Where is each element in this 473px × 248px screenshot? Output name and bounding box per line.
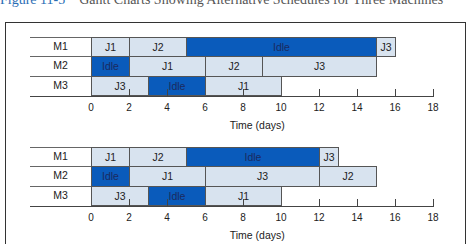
job-bar: J1 — [129, 166, 206, 186]
x-tick-label: 10 — [271, 102, 291, 113]
job-bar: J3 — [91, 186, 149, 206]
x-tick-label: 16 — [385, 102, 405, 113]
job-bar: J3 — [376, 37, 396, 57]
gantt-chart-schedule-b: M1M2M3J1J2IdleJ3IdleJ1J3J2J3IdleJ1024681… — [0, 147, 473, 248]
x-tick-label: 0 — [81, 212, 101, 223]
x-tick — [319, 89, 320, 96]
x-tick — [395, 89, 396, 96]
job-bar: J2 — [205, 56, 263, 76]
x-tick-label: 0 — [81, 102, 101, 113]
x-tick — [243, 199, 244, 206]
job-bar: J1 — [129, 56, 206, 76]
x-tick-label: 6 — [195, 102, 215, 113]
gantt-chart-schedule-a: M1M2M3J1J2IdleJ3IdleJ1J2J3J3IdleJ1024681… — [0, 37, 473, 147]
job-bar: J3 — [91, 76, 149, 96]
x-tick-label: 14 — [347, 212, 367, 223]
x-tick — [319, 199, 320, 206]
x-tick — [433, 89, 434, 96]
x-tick-label: 4 — [157, 102, 177, 113]
x-tick-label: 6 — [195, 212, 215, 223]
x-tick — [243, 89, 244, 96]
x-axis-label: Time (days) — [230, 229, 285, 241]
x-tick-label: 16 — [385, 212, 405, 223]
idle-bar: Idle — [91, 56, 130, 76]
x-tick-label: 18 — [423, 102, 443, 113]
job-bar: J2 — [129, 147, 187, 167]
x-tick — [129, 89, 130, 96]
idle-bar: Idle — [186, 147, 320, 167]
row-label-m3: M3 — [30, 76, 91, 95]
x-axis — [30, 206, 434, 208]
row-label-m2: M2 — [30, 166, 91, 185]
job-bar: J1 — [91, 37, 130, 57]
job-bar: J2 — [129, 37, 187, 57]
figure-caption: Gantt Charts Showing Alternative Schedul… — [79, 0, 443, 7]
idle-bar: Idle — [186, 37, 377, 57]
job-bar: J3 — [205, 166, 320, 186]
idle-bar: Idle — [148, 186, 206, 206]
figure-number: Figure 11-5 — [0, 0, 65, 7]
row-label-m3: M3 — [30, 186, 91, 205]
x-tick — [433, 199, 434, 206]
x-tick-label: 8 — [233, 102, 253, 113]
idle-bar: Idle — [91, 166, 130, 186]
x-tick — [129, 199, 130, 206]
job-bar: J3 — [319, 147, 339, 167]
figure-title: Figure 11-5 Gantt Charts Showing Alterna… — [0, 0, 443, 8]
row-label-m1: M1 — [30, 147, 91, 166]
row-label-m2: M2 — [30, 56, 91, 75]
x-tick-label: 2 — [119, 212, 139, 223]
job-bar: J3 — [262, 56, 377, 76]
x-axis-label: Time (days) — [230, 119, 285, 131]
x-tick — [167, 89, 168, 96]
x-tick-label: 12 — [309, 212, 329, 223]
x-tick — [357, 199, 358, 206]
job-bar: J2 — [319, 166, 377, 186]
x-tick-label: 12 — [309, 102, 329, 113]
x-tick-label: 10 — [271, 212, 291, 223]
x-axis — [30, 96, 434, 98]
x-tick-label: 2 — [119, 102, 139, 113]
x-tick-label: 14 — [347, 102, 367, 113]
x-tick — [395, 199, 396, 206]
row-label-m1: M1 — [30, 37, 91, 56]
x-tick — [357, 89, 358, 96]
job-bar: J1 — [91, 147, 130, 167]
idle-bar: Idle — [148, 76, 206, 96]
x-tick-label: 18 — [423, 212, 443, 223]
x-tick-label: 4 — [157, 212, 177, 223]
x-tick-label: 8 — [233, 212, 253, 223]
x-tick — [167, 199, 168, 206]
